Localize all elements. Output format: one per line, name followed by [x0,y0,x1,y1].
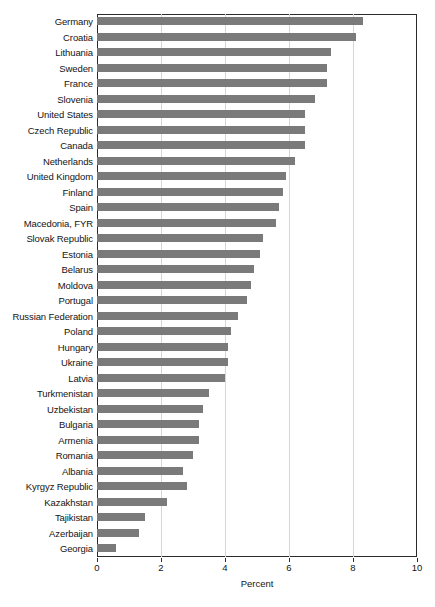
bar [97,188,283,196]
bar [97,498,167,506]
category-label: United Kingdom [0,169,93,184]
bar [97,234,263,242]
category-label: Tajikistan [0,510,93,525]
bar [97,79,327,87]
category-label: Portugal [0,293,93,308]
bar-row [97,386,417,401]
category-label: Hungary [0,340,93,355]
bar-row [97,200,417,215]
category-label: Latvia [0,371,93,386]
category-label: Uzbekistan [0,402,93,417]
category-label: France [0,76,93,91]
x-tick-label: 0 [94,562,99,573]
bar [97,95,315,103]
bar-row [97,185,417,200]
bar-row [97,61,417,76]
bar [97,374,225,382]
bar-row [97,309,417,324]
bar [97,358,228,366]
bar-row [97,526,417,541]
bar-row [97,371,417,386]
category-label: Georgia [0,541,93,556]
bar [97,327,231,335]
category-label: Lithuania [0,45,93,60]
category-label: Slovenia [0,92,93,107]
bar-row [97,495,417,510]
bar [97,281,251,289]
bar-row [97,448,417,463]
bar-row [97,479,417,494]
category-label: United States [0,107,93,122]
x-tick-label: 4 [222,562,227,573]
bar-row [97,123,417,138]
category-label: Netherlands [0,154,93,169]
bar [97,141,305,149]
bar [97,312,238,320]
bar [97,343,228,351]
bar-row [97,278,417,293]
x-tick-label: 8 [350,562,355,573]
bar [97,451,193,459]
bar [97,467,183,475]
bar [97,405,203,413]
bar-row [97,107,417,122]
bar-row [97,433,417,448]
bar-row [97,92,417,107]
bar [97,529,139,537]
bar-row [97,355,417,370]
bar [97,48,331,56]
category-label: Macedonia, FYR [0,216,93,231]
bar-row [97,340,417,355]
bar [97,203,279,211]
bar [97,172,286,180]
category-label: Moldova [0,278,93,293]
category-label: Germany [0,14,93,29]
category-label: Armenia [0,433,93,448]
bar-row [97,541,417,556]
bar [97,250,260,258]
bar-row [97,402,417,417]
bar-row [97,216,417,231]
x-axis-ticks: 0246810 [0,558,435,574]
category-label: Azerbaijan [0,526,93,541]
bar-row [97,76,417,91]
bar-row [97,247,417,262]
category-label: Kazakhstan [0,495,93,510]
bar-row [97,464,417,479]
category-label: Slovak Republic [0,231,93,246]
x-tick-label: 10 [412,562,423,573]
bar [97,33,356,41]
category-label: Ukraine [0,355,93,370]
category-label: Spain [0,200,93,215]
bar-chart: GermanyCroatiaLithuaniaSwedenFranceSlove… [0,0,435,607]
category-label: Albania [0,464,93,479]
bar [97,157,295,165]
bar-series [97,14,417,557]
bar-row [97,262,417,277]
category-label: Bulgaria [0,417,93,432]
bar [97,513,145,521]
bar [97,17,363,25]
bar-row [97,417,417,432]
bar [97,219,276,227]
bar [97,296,247,304]
category-label: Estonia [0,247,93,262]
bar-row [97,231,417,246]
category-label: Croatia [0,30,93,45]
bar [97,110,305,118]
bar-row [97,138,417,153]
bar-row [97,30,417,45]
category-label: Russian Federation [0,309,93,324]
x-tick-label: 2 [158,562,163,573]
category-label: Sweden [0,61,93,76]
bar-row [97,293,417,308]
bar-row [97,510,417,525]
bar [97,64,327,72]
category-label: Belarus [0,262,93,277]
bar-row [97,154,417,169]
category-label: Canada [0,138,93,153]
x-tick-label: 6 [286,562,291,573]
category-label: Romania [0,448,93,463]
bar-row [97,45,417,60]
bar-row [97,14,417,29]
